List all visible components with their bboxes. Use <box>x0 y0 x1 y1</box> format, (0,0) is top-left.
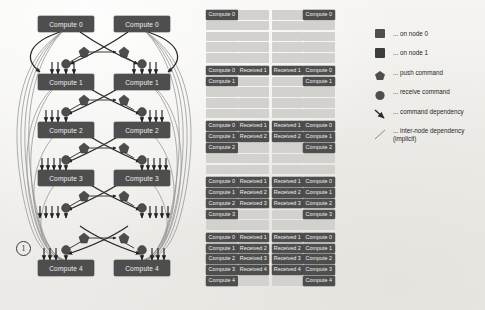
schedule-cell-empty <box>272 143 304 153</box>
schedule-cell-filled: Received 4 <box>272 265 304 275</box>
legend-label-main: ... on node 1 <box>393 49 428 56</box>
schedule-cell-empty <box>206 87 238 97</box>
legend-item: ... on node 0 <box>374 28 485 39</box>
schedule-cell-filled: Compute 1 <box>206 188 238 198</box>
schedule-cell-filled: Compute 2 <box>303 199 335 209</box>
schedule-cell-filled: Compute 1 <box>303 77 335 87</box>
schedule-cell-empty <box>303 109 335 119</box>
compute-node-left-4[interactable]: Compute 4 <box>38 260 94 276</box>
schedule-cell-filled: Received 2 <box>272 244 304 254</box>
schedule-row: Compute 2Compute 2 <box>206 143 336 153</box>
schedule-cell-filled: Received 1 <box>272 177 304 187</box>
legend-label: ... on node 0 <box>393 28 428 37</box>
schedule-cell-empty <box>303 42 335 52</box>
schedule-cell-empty <box>238 21 270 31</box>
schedule-cell-empty <box>303 154 335 164</box>
compute-node-right-0[interactable]: Compute 0 <box>114 16 170 32</box>
compute-node-left-3[interactable]: Compute 3 <box>38 170 94 186</box>
schedule-cell-empty <box>238 42 270 52</box>
schedule-row: Compute 0Received 1Received 1Compute 0 <box>206 66 336 76</box>
schedule-block: Compute 0Compute 0 <box>206 10 336 63</box>
schedule-cell-filled: Received 1 <box>238 66 270 76</box>
compute-node-left-1[interactable]: Compute 1 <box>38 74 94 90</box>
schedule-row <box>206 98 336 108</box>
legend-label-main: ... on node 0 <box>393 30 428 37</box>
schedule-cell-empty <box>238 154 270 164</box>
schedule-cell-empty <box>272 53 304 63</box>
schedule-row <box>206 165 336 175</box>
compute-node-left-2[interactable]: Compute 2 <box>38 122 94 138</box>
legend-label-main: ... command dependency <box>393 108 464 115</box>
legend-label: ... push command <box>393 67 443 76</box>
schedule-cell-empty <box>238 220 270 230</box>
compute-node-left-0[interactable]: Compute 0 <box>38 16 94 32</box>
legend-marker-square <box>374 48 390 59</box>
schedule-cell-empty <box>303 87 335 97</box>
schedule-block: Compute 0Received 1Received 1Compute 0Co… <box>206 233 336 286</box>
schedule-cell-empty <box>272 220 304 230</box>
schedule-row <box>206 21 336 31</box>
legend-label-main: ... push command <box>393 69 443 76</box>
schedule-cell-filled: Compute 2 <box>206 199 238 209</box>
schedule-cell-filled: Compute 0 <box>303 10 335 20</box>
legend-label-main: ... inter-node dependency <box>393 127 464 134</box>
schedule-cell-empty <box>238 143 270 153</box>
schedule-cell-filled: Compute 1 <box>303 132 335 142</box>
schedule-cell-filled: Received 1 <box>272 121 304 131</box>
legend-marker-square <box>374 28 390 39</box>
schedule-cell-filled: Compute 0 <box>303 66 335 76</box>
legend-marker-arrow <box>374 106 390 117</box>
legend-item: ... inter-node dependency(implicit) <box>374 126 485 143</box>
legend-label: ... inter-node dependency(implicit) <box>393 126 464 143</box>
schedule-cell-filled: Compute 3 <box>206 210 238 220</box>
legend-marker-pentagon <box>374 67 390 78</box>
schedule-cell-empty <box>272 87 304 97</box>
compute-node-right-2[interactable]: Compute 2 <box>114 122 170 138</box>
schedule-row <box>206 53 336 63</box>
schedule-row: Compute 1Compute 1 <box>206 77 336 87</box>
schedule-cell-filled: Compute 4 <box>206 276 238 286</box>
schedule-row <box>206 109 336 119</box>
schedule-cell-empty <box>238 98 270 108</box>
schedule-cell-empty <box>206 98 238 108</box>
schedule-cell-filled: Received 1 <box>238 233 270 243</box>
schedule-cell-empty <box>272 154 304 164</box>
legend-label: ... receive command <box>393 87 450 96</box>
schedule-cell-empty <box>303 32 335 42</box>
schedule-cell-filled: Compute 0 <box>303 121 335 131</box>
schedule-cell-empty <box>206 220 238 230</box>
schedule-cell-filled: Received 3 <box>238 199 270 209</box>
compute-node-right-4[interactable]: Compute 4 <box>114 260 170 276</box>
schedule-cell-filled: Received 2 <box>238 244 270 254</box>
graph-edges <box>0 0 208 310</box>
square-swatch-icon <box>375 48 385 58</box>
schedule-block: Compute 0Received 1Received 1Compute 0Co… <box>206 177 336 230</box>
schedule-cell-filled: Received 1 <box>272 66 304 76</box>
schedule-cell-filled: Compute 0 <box>206 66 238 76</box>
schedule-cell-empty <box>272 210 304 220</box>
schedule-cell-empty <box>206 42 238 52</box>
schedule-cell-empty <box>206 165 238 175</box>
schedule-cell-filled: Received 1 <box>272 233 304 243</box>
schedule-row: Compute 0Received 1Received 1Compute 0 <box>206 177 336 187</box>
schedule-cell-empty <box>303 53 335 63</box>
schedule-block: Compute 0Received 1Received 1Compute 0Co… <box>206 121 336 174</box>
schedule-cell-filled: Compute 1 <box>206 77 238 87</box>
figure-root: Compute 0 Compute 0 Compute 1 Compute 1 … <box>0 0 485 310</box>
schedule-cell-empty <box>238 276 270 286</box>
compute-node-right-3[interactable]: Compute 3 <box>114 170 170 186</box>
schedule-cell-filled: Compute 0 <box>206 121 238 131</box>
legend-item: ... receive command <box>374 87 485 98</box>
circle-icon <box>375 90 384 99</box>
schedule-cell-filled: Compute 1 <box>206 244 238 254</box>
schedule-cell-filled: Received 2 <box>238 188 270 198</box>
schedule-cell-empty <box>272 98 304 108</box>
schedule-cell-empty <box>272 276 304 286</box>
legend-label-main: ... receive command <box>393 88 450 95</box>
diagonal-line-icon <box>375 130 385 139</box>
legend-item: ... push command <box>374 67 485 78</box>
schedule-cell-filled: Received 2 <box>272 188 304 198</box>
schedule-cell-filled: Compute 3 <box>206 265 238 275</box>
schedule-table: Compute 0Compute 0Compute 0Received 1Rec… <box>206 10 336 289</box>
compute-node-right-1[interactable]: Compute 1 <box>114 74 170 90</box>
